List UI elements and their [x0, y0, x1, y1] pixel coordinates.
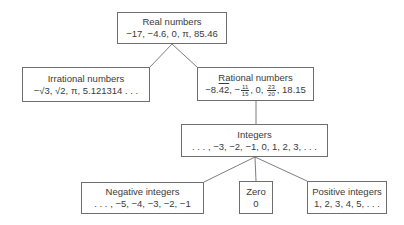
node-title: Negative integers [106, 186, 180, 198]
edge-real-irrational [150, 44, 172, 67]
node-title: Rational numbers [218, 72, 292, 84]
node-examples: . . . , −5, −4, −3, −2, −1 [94, 198, 190, 210]
node-title: Positive integers [312, 186, 382, 198]
fraction-denominator: 15 [241, 91, 249, 97]
node-integers: Integers . . . , −3, −2, −1, 0, 1, 2, 3,… [181, 124, 328, 157]
node-positive-integers: Positive integers 1, 2, 3, 4, 5, . . . [307, 181, 387, 214]
node-examples: 0 [253, 198, 258, 210]
node-title: Irrational numbers [48, 73, 125, 85]
node-examples: −17, −4.6, 0, π, 85.46 [126, 28, 218, 40]
fraction: 2320 [267, 84, 276, 97]
node-examples: −√3, √2, π, 5.121314 . . . [34, 85, 138, 97]
node-examples: . . . , −3, −2, −1, 0, 1, 2, 3, . . . [192, 141, 317, 153]
node-examples: −8.42, −1115, 0, 2320, 18.15 [205, 84, 306, 97]
edge-real-rational [172, 44, 197, 67]
node-irrational-numbers: Irrational numbers −√3, √2, π, 5.121314 … [22, 67, 150, 102]
node-title: Real numbers [142, 16, 201, 28]
node-rational-numbers: Rational numbers −8.42, −1115, 0, 2320, … [197, 67, 314, 101]
edge-integers-negative [204, 157, 255, 182]
examples-text: −8. [205, 84, 218, 95]
repeating-digits: 42 [219, 84, 230, 95]
node-examples: 1, 2, 3, 4, 5, . . . [314, 198, 380, 210]
node-zero: Zero 0 [239, 181, 273, 214]
examples-text: , − [229, 84, 240, 95]
edge-integers-positive [255, 157, 307, 181]
node-real-numbers: Real numbers −17, −4.6, 0, π, 85.46 [117, 12, 227, 44]
fraction-denominator: 20 [267, 91, 276, 97]
fraction-numerator: 11 [241, 84, 249, 91]
examples-text: , 0, [250, 84, 266, 95]
edge-integers-zero [255, 157, 256, 181]
examples-text: , 18.15 [277, 84, 306, 95]
fraction: 1115 [241, 84, 249, 97]
fraction-numerator: 23 [267, 84, 276, 91]
node-negative-integers: Negative integers . . . , −5, −4, −3, −2… [81, 182, 204, 214]
node-title: Integers [237, 129, 271, 141]
node-title: Zero [246, 186, 266, 198]
